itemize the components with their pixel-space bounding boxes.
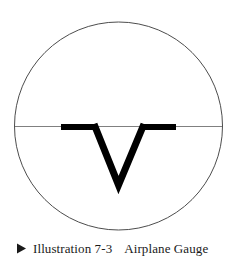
airplane-gauge-diagram [0, 0, 240, 234]
figure-container: Illustration 7-3 Airplane Gauge [0, 0, 240, 263]
caption-title: Airplane Gauge [124, 241, 208, 256]
figure-caption: Illustration 7-3 Airplane Gauge [0, 234, 240, 263]
right-triangle-bullet-icon [17, 243, 26, 254]
gauge-svg [0, 0, 240, 234]
caption-illustration-number: Illustration 7-3 [33, 241, 112, 256]
